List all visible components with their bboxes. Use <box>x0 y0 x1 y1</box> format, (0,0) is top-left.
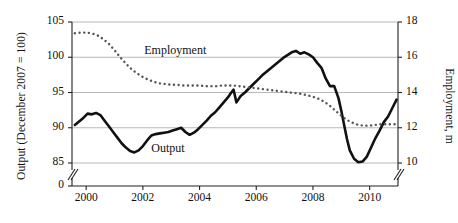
plot-area <box>0 0 458 223</box>
series-layer <box>75 33 397 163</box>
axis-frame <box>72 22 398 186</box>
series-line-employment <box>75 33 397 126</box>
chart-figure: Output (December 2007 = 100) Employment,… <box>0 0 458 223</box>
axis-break-marks <box>68 169 404 180</box>
series-line-output <box>75 51 397 162</box>
tick-marks <box>68 22 402 190</box>
